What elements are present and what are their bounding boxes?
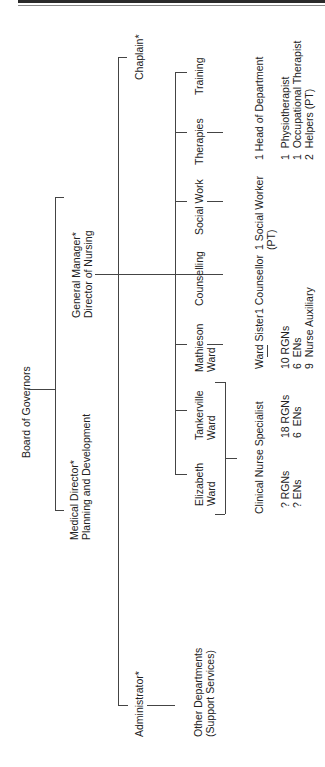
- connector: [175, 474, 187, 475]
- connector: [118, 57, 119, 705]
- connector: [55, 510, 64, 511]
- bracket: [215, 514, 225, 515]
- connector: [175, 132, 187, 133]
- tankerville-staff: 18 RGNs6 ENs: [279, 395, 303, 438]
- connector: [207, 201, 223, 202]
- bracket: [215, 382, 225, 383]
- connector: [207, 274, 223, 275]
- mathieson-ward-node: MathiesonWard: [193, 324, 217, 372]
- other-departments-node: Other Departments(Support Services): [192, 648, 216, 737]
- head-of-department-staff: 1 Head of Department: [253, 57, 265, 160]
- bracket: [225, 458, 237, 459]
- top-border: [18, 0, 325, 3]
- connector: [207, 132, 223, 133]
- connector: [55, 197, 56, 510]
- connector: [118, 57, 127, 58]
- connector: [175, 410, 187, 411]
- connector: [118, 705, 128, 706]
- therapies-node: Therapies: [193, 118, 205, 165]
- connector: [175, 201, 187, 202]
- ward-sister: Ward Sister: [253, 315, 265, 369]
- general-manager-node: General Manager*Director of Nursing: [70, 230, 94, 318]
- tankerville-ward-node: TankervilleWard: [193, 390, 217, 440]
- clinical-nurse-specialist: Clinical Nurse Specialist: [253, 401, 265, 514]
- connector: [28, 389, 55, 390]
- connector: [175, 72, 187, 73]
- connector: [267, 345, 268, 357]
- administrator-node: Administrator*: [133, 671, 145, 737]
- top-border-thin: [18, 5, 325, 6]
- bracket: [225, 382, 226, 514]
- connector: [175, 344, 187, 345]
- social-work-node: Social Work: [193, 179, 205, 235]
- elizabeth-staff: ? RGNs? ENs: [279, 471, 303, 508]
- therapies-staff: 1 Physiotherapist1 Occupational Therapis…: [279, 41, 315, 160]
- medical-director-node: Medical Director*Planning and Developmen…: [68, 414, 92, 540]
- connector: [147, 705, 175, 706]
- connector: [55, 197, 64, 198]
- root-node: Board of Governors: [20, 366, 32, 458]
- counselling-node: Counselling: [193, 251, 205, 306]
- social-worker-staff: 1 Social Worker(PT): [253, 176, 277, 250]
- counsellor-staff: 1 Counsellor: [253, 255, 265, 314]
- elizabeth-ward-node: ElizabethWard: [193, 463, 217, 506]
- chaplain-node: Chaplain*: [133, 34, 145, 80]
- mathieson-staff: 10 RGNs6 ENs9 Nurse Auxiliary: [279, 287, 315, 369]
- training-node: Training: [193, 57, 205, 95]
